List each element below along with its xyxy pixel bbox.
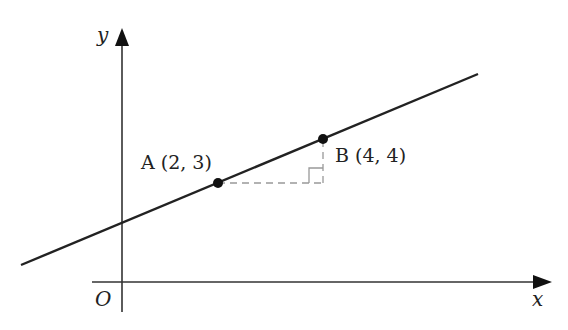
- coordinate-diagram: y x O A (2, 3) B (4, 4): [0, 0, 568, 330]
- point-b: [318, 134, 328, 144]
- point-b-label: B (4, 4): [335, 144, 406, 166]
- origin-label: O: [95, 287, 111, 311]
- point-a-label: A (2, 3): [140, 151, 212, 173]
- line-ab: [21, 74, 478, 265]
- point-a: [213, 178, 223, 188]
- right-angle-marker: [309, 168, 323, 183]
- y-axis-label: y: [96, 23, 109, 47]
- x-axis-label: x: [532, 287, 543, 311]
- y-axis-arrow-icon: [115, 28, 129, 46]
